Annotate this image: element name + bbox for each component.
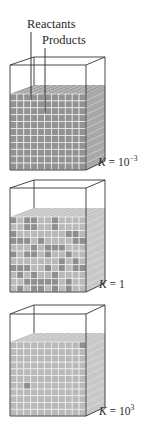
reactant-cell (79, 163, 86, 170)
product-cell (79, 285, 86, 292)
reactant-cell (17, 265, 24, 272)
reactant-cell (10, 217, 17, 224)
container-rim (10, 57, 105, 65)
reactant-cell (58, 265, 65, 272)
reactant-cell (31, 115, 38, 122)
product-cell (17, 396, 24, 403)
product-cell (51, 237, 58, 244)
reactant-cell (51, 244, 58, 251)
product-cell (51, 231, 58, 238)
product-cell (58, 349, 65, 356)
product-cell (17, 258, 24, 265)
reactant-cell (10, 122, 17, 129)
reactant-cell (65, 285, 72, 292)
reactant-cell (72, 231, 79, 238)
product-cell (51, 403, 58, 410)
reactant-cell (17, 149, 24, 156)
product-cell (10, 258, 17, 265)
product-cell (38, 258, 45, 265)
reactant-cell (58, 258, 65, 265)
product-cell (24, 369, 31, 376)
product-cell (79, 376, 86, 383)
product-cell (10, 403, 17, 410)
product-cell (38, 409, 45, 416)
product-cell (38, 382, 45, 389)
product-cell (58, 231, 65, 238)
product-cell (51, 369, 58, 376)
product-cell (58, 389, 65, 396)
reactant-cell (10, 231, 17, 238)
reactant-cell (79, 108, 86, 115)
product-cell (65, 362, 72, 369)
product-cell (17, 278, 24, 285)
product-cell (24, 349, 31, 356)
reactant-cell (65, 115, 72, 122)
reactant-cell (45, 108, 52, 115)
reactant-cell (51, 122, 58, 129)
product-cell (65, 369, 72, 376)
product-cell (31, 403, 38, 410)
product-cell (45, 285, 52, 292)
reactant-cell (17, 142, 24, 149)
product-cell (79, 272, 86, 279)
product-cell (45, 382, 52, 389)
product-cell (79, 217, 86, 224)
product-cell (10, 362, 17, 369)
reactant-cell (45, 149, 52, 156)
product-cell (10, 376, 17, 383)
product-cell (31, 382, 38, 389)
k-label-one: K = 1 (99, 279, 125, 291)
reactant-cell (58, 115, 65, 122)
product-cell (38, 342, 45, 349)
product-cell (31, 409, 38, 416)
reactant-cell (65, 142, 72, 149)
product-cell (24, 355, 31, 362)
reactant-cell (58, 244, 65, 251)
product-cell (51, 258, 58, 265)
reactant-cell (65, 251, 72, 258)
reactant-cell (51, 142, 58, 149)
product-cell (79, 369, 86, 376)
reactant-cell (17, 122, 24, 129)
product-cell (45, 355, 52, 362)
product-cell (24, 285, 31, 292)
reactant-cell (24, 122, 31, 129)
reactant-cell (31, 272, 38, 279)
reactant-cell (51, 129, 58, 136)
reactant-cell (51, 135, 58, 142)
reactant-cell (51, 94, 58, 101)
product-cell (10, 349, 17, 356)
product-cell (79, 349, 86, 356)
product-cell (45, 396, 52, 403)
product-cell (58, 376, 65, 383)
product-cell (72, 389, 79, 396)
reactant-cell (10, 237, 17, 244)
product-cell (79, 382, 86, 389)
product-cell (38, 251, 45, 258)
reactant-cell (38, 237, 45, 244)
reactant-cell (51, 156, 58, 163)
reactant-cell (72, 258, 79, 265)
reactant-cell (10, 101, 17, 108)
product-cell (17, 217, 24, 224)
product-cell (31, 237, 38, 244)
product-cell (38, 362, 45, 369)
reactant-cell (38, 135, 45, 142)
product-cell (51, 362, 58, 369)
product-cell (65, 355, 72, 362)
product-cell (72, 403, 79, 410)
reactant-cell (45, 101, 52, 108)
reactant-cell (31, 163, 38, 170)
product-cell (65, 265, 72, 272)
reactant-cell (45, 122, 52, 129)
reactant-cell (31, 142, 38, 149)
product-cell (72, 217, 79, 224)
product-cell (79, 244, 86, 251)
product-cell (38, 376, 45, 383)
reactant-cell (58, 163, 65, 170)
product-cell (17, 244, 24, 251)
product-cell (45, 376, 52, 383)
reactant-cell (10, 149, 17, 156)
product-cell (58, 409, 65, 416)
product-cell (65, 409, 72, 416)
